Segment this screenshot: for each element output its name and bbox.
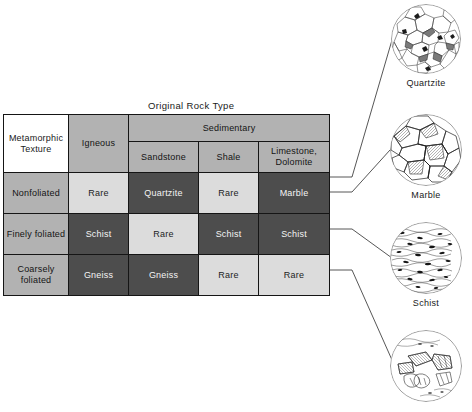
quartzite-circle	[391, 4, 461, 74]
row-label-coarsely-foliated: Coarsely foliated	[4, 255, 69, 295]
schist-texture-icon	[390, 222, 462, 294]
column-header-limestone-dolomite: Limestone, Dolomite	[259, 142, 329, 173]
group-header-sedimentary: Sedimentary	[129, 115, 329, 142]
column-header-igneous: Igneous	[69, 115, 129, 173]
limestone-line1: Limestone,	[271, 146, 317, 157]
marble-texture-icon	[390, 114, 462, 186]
specimen-quartzite: Quartzite	[388, 4, 464, 96]
row-label-finely-foliated: Finely foliated	[4, 214, 69, 255]
quartzite-texture-icon	[391, 4, 461, 74]
classification-table: Metamorphic Texture Igneous Sedimentary …	[3, 114, 330, 296]
cell-coarsely-igneous: Gneiss	[69, 255, 129, 295]
table-title: Original Rock Type	[148, 100, 234, 111]
cell-finely-sandstone: Rare	[129, 214, 199, 255]
corner-header-line1: Metamorphic	[9, 133, 63, 144]
cell-finely-shale: Schist	[199, 214, 259, 255]
specimen-gneiss	[386, 330, 466, 412]
cell-finely-igneous: Schist	[69, 214, 129, 255]
gneiss-circle	[390, 330, 462, 402]
cell-nonfoliated-shale: Rare	[199, 173, 259, 214]
column-header-shale: Shale	[199, 142, 259, 173]
cell-nonfoliated-igneous: Rare	[69, 173, 129, 214]
cell-nonfoliated-limestone: Marble	[259, 173, 329, 214]
cell-coarsely-limestone: Rare	[259, 255, 329, 295]
cell-finely-limestone: Schist	[259, 214, 329, 255]
marble-circle	[390, 114, 462, 186]
coarse-line1: Coarsely	[17, 264, 54, 275]
gneiss-texture-icon	[390, 330, 462, 402]
quartzite-label: Quartzite	[388, 78, 464, 88]
marble-label: Marble	[386, 190, 466, 200]
row-label-nonfoliated: Nonfoliated	[4, 173, 69, 214]
specimen-schist: Schist	[386, 222, 466, 314]
corner-header-line2: Texture	[21, 144, 52, 155]
coarse-line2: foliated	[21, 275, 52, 286]
cell-coarsely-sandstone: Gneiss	[129, 255, 199, 295]
schist-circle	[390, 222, 462, 294]
limestone-line2: Dolomite	[275, 157, 312, 168]
specimen-marble: Marble	[386, 114, 466, 206]
schist-label: Schist	[386, 298, 466, 308]
corner-header: Metamorphic Texture	[4, 115, 69, 173]
column-header-sandstone: Sandstone	[129, 142, 199, 173]
metamorphic-rock-chart: Original Rock Type Metamorphic Texture I…	[0, 0, 472, 412]
cell-nonfoliated-sandstone: Quartzite	[129, 173, 199, 214]
cell-coarsely-shale: Rare	[199, 255, 259, 295]
